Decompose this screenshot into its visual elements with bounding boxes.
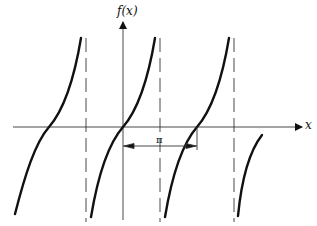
curve-branch-1 <box>15 38 81 214</box>
y-axis-label: f(x) <box>117 5 138 17</box>
tan-curves <box>15 38 262 217</box>
curve-branch-4 <box>238 135 262 216</box>
tangent-graph <box>0 0 317 226</box>
asymptotes <box>86 38 234 222</box>
period-label: π <box>156 135 163 145</box>
x-axis-label: x <box>305 119 312 131</box>
